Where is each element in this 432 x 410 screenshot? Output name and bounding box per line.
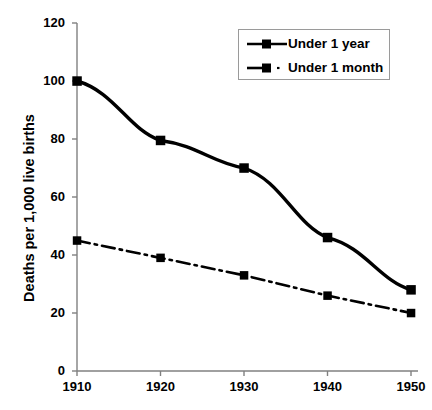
- y-axis-title: Deaths per 1,000 live births: [21, 83, 37, 333]
- y-axis-ticks: [72, 23, 77, 371]
- data-point-marker: [239, 163, 249, 173]
- x-axis-tick-label: 1940: [298, 380, 358, 393]
- data-point-marker: [323, 233, 333, 243]
- data-point-marker: [407, 309, 416, 318]
- data-point-marker: [406, 285, 416, 295]
- legend-label-under-1-year: Under 1 year: [288, 36, 370, 51]
- x-axis-tick-label: 1930: [214, 380, 274, 393]
- legend-item-under-1-month: Under 1 month: [239, 55, 391, 80]
- data-point-marker: [156, 254, 165, 263]
- y-axis-tick-label: 120: [25, 16, 65, 29]
- x-axis-ticks: [77, 371, 411, 376]
- chart-container: 020406080100120 19101920193019401950 Dea…: [0, 0, 432, 410]
- legend-item-under-1-year: Under 1 year: [239, 31, 391, 56]
- legend-swatch-solid-line: [247, 37, 287, 51]
- chart-legend: Under 1 year Under 1 month: [238, 29, 390, 80]
- data-point-marker: [73, 236, 82, 245]
- legend-label-under-1-month: Under 1 month: [288, 60, 383, 75]
- data-point-marker: [240, 271, 249, 280]
- data-point-marker: [72, 76, 82, 86]
- x-axis-tick-label: 1920: [131, 380, 191, 393]
- data-point-marker: [323, 291, 332, 300]
- legend-swatch-dash-dot-line: [247, 61, 287, 75]
- data-point-marker: [156, 136, 166, 146]
- x-axis-tick-label: 1950: [381, 380, 432, 393]
- x-axis-tick-label: 1910: [47, 380, 107, 393]
- y-axis-tick-label: 0: [25, 364, 65, 377]
- series-line-0: [77, 81, 411, 290]
